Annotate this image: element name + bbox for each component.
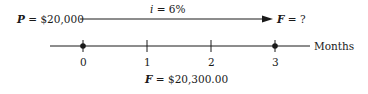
- present-value-label: P = $20,000: [17, 14, 84, 25]
- tick-label-2: 2: [208, 57, 215, 68]
- tick-label-1: 1: [144, 57, 151, 68]
- rate-symbol: i: [150, 3, 153, 15]
- tick-label-3: 3: [272, 57, 279, 68]
- future-symbol: F: [277, 13, 284, 25]
- interest-rate-label: i = 6%: [150, 4, 186, 15]
- arrow-head-icon: [262, 16, 273, 23]
- result-amount: = $20,300.00: [156, 73, 228, 85]
- result-label: F = $20,300.00: [145, 74, 228, 85]
- future-value-label: F = ?: [277, 14, 306, 25]
- present-symbol: P: [17, 13, 25, 25]
- future-point-dot: [272, 43, 278, 49]
- tick-label-0: 0: [80, 57, 87, 68]
- present-point-dot: [80, 43, 86, 49]
- rate-amount: = 6%: [157, 3, 186, 15]
- present-amount: = $20,000: [28, 13, 84, 25]
- axis-label: Months: [314, 41, 354, 52]
- future-amount: = ?: [288, 13, 306, 25]
- result-symbol: F: [145, 73, 152, 85]
